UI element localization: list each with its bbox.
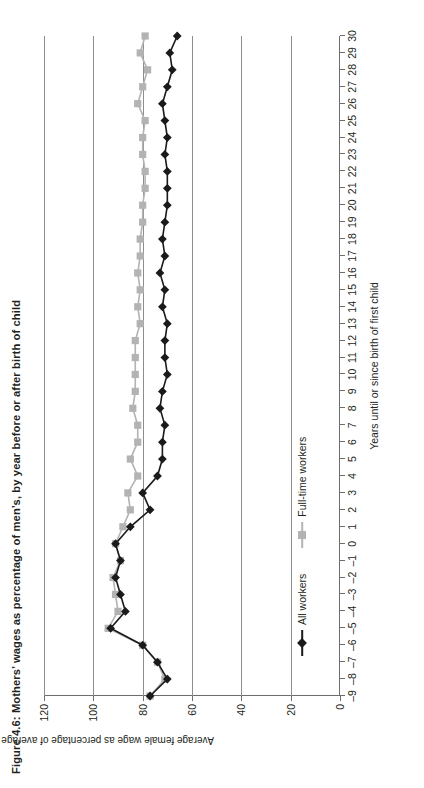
x-tick-label: 12 [347, 335, 358, 347]
series-marker [160, 336, 169, 345]
series-marker [137, 49, 144, 56]
x-tick [340, 204, 345, 205]
x-tick [340, 238, 345, 239]
y-tick-label: 80 [137, 704, 148, 716]
series-marker [134, 472, 141, 479]
x-tick-label: 4 [347, 473, 358, 479]
series-marker [114, 608, 121, 615]
y-tick-label: 0 [335, 704, 346, 710]
chart-legend: All workersFull-time workers [296, 437, 308, 656]
x-tick-label: 13 [347, 318, 358, 330]
series-marker [132, 337, 139, 344]
series-marker [134, 303, 141, 310]
chart-plot-area: 020406080100120 –9–8–7–6–5–4–3–2–1012345… [44, 36, 340, 696]
diamond-marker-icon [297, 638, 307, 648]
x-tick [340, 678, 345, 679]
series-marker [127, 455, 134, 462]
series-marker [163, 319, 172, 328]
y-tick-label: 40 [236, 704, 247, 716]
x-tick [340, 357, 345, 358]
x-tick [340, 289, 345, 290]
legend-swatch [301, 522, 303, 548]
x-tick-label: 30 [347, 30, 358, 42]
x-tick-label: 16 [347, 267, 358, 279]
x-tick [340, 475, 345, 476]
y-tick-label: 120 [39, 704, 50, 722]
figure-page: Figure 4.6: Mothers’ wages as percentage… [0, 0, 424, 788]
series-marker [168, 65, 177, 74]
x-tick [340, 390, 345, 391]
x-tick [340, 35, 345, 36]
series-marker [142, 117, 149, 124]
series-marker [163, 82, 172, 91]
x-tick [340, 492, 345, 493]
series-marker [158, 99, 167, 108]
series-marker [142, 32, 149, 39]
series-marker [160, 421, 169, 430]
x-tick [340, 593, 345, 594]
x-tick-label: –7 [347, 656, 358, 668]
y-tick [291, 696, 292, 701]
x-tick-label: 21 [347, 182, 358, 194]
x-tick [340, 103, 345, 104]
x-tick [340, 52, 345, 53]
x-tick-label: 23 [347, 149, 358, 161]
x-tick-label: 22 [347, 166, 358, 178]
x-tick-label: 14 [347, 301, 358, 313]
y-tick [93, 696, 94, 701]
x-tick [340, 170, 345, 171]
x-tick-label: –1 [347, 555, 358, 567]
x-tick-label: 15 [347, 284, 358, 296]
series-marker [119, 523, 126, 530]
x-tick-label: 28 [347, 64, 358, 76]
series-marker [163, 370, 172, 379]
series-marker [139, 83, 146, 90]
x-tick [340, 543, 345, 544]
x-tick-label: 1 [347, 524, 358, 530]
x-tick [340, 644, 345, 645]
x-tick-label: –5 [347, 622, 358, 634]
series-marker [163, 201, 172, 210]
series-marker [142, 168, 149, 175]
x-tick-label: 5 [347, 456, 358, 462]
chart-series [105, 32, 169, 699]
series-marker [160, 252, 169, 261]
x-tick [340, 577, 345, 578]
x-tick [340, 86, 345, 87]
x-tick [340, 120, 345, 121]
x-tick-label: 0 [347, 541, 358, 547]
series-marker [163, 133, 172, 142]
y-tick [340, 696, 341, 701]
x-axis-title: Years until or since birth of first chil… [368, 36, 380, 696]
series-marker [139, 202, 146, 209]
x-tick-label: 8 [347, 405, 358, 411]
x-tick-label: 27 [347, 81, 358, 93]
x-tick [340, 373, 345, 374]
x-tick [340, 306, 345, 307]
x-tick [340, 137, 345, 138]
series-marker [165, 49, 174, 58]
series-marker [137, 235, 144, 242]
series-marker [158, 387, 167, 396]
series-marker [134, 422, 141, 429]
series-marker [156, 404, 165, 413]
x-tick [340, 340, 345, 341]
series-marker [144, 66, 151, 73]
series-marker [134, 100, 141, 107]
x-tick [340, 526, 345, 527]
x-tick-label: 19 [347, 216, 358, 228]
x-tick-label: 2 [347, 507, 358, 513]
x-tick [340, 695, 345, 696]
series-marker [139, 219, 146, 226]
series-marker [142, 185, 149, 192]
y-tick-label: 20 [285, 704, 296, 716]
series-marker [160, 353, 169, 362]
x-tick [340, 627, 345, 628]
series-marker [163, 167, 172, 176]
y-tick-label: 100 [88, 704, 99, 722]
y-tick [192, 696, 193, 701]
series-marker [137, 286, 144, 293]
legend-item: All workers [296, 574, 308, 656]
series-marker [129, 405, 136, 412]
x-tick-label: –6 [347, 639, 358, 651]
